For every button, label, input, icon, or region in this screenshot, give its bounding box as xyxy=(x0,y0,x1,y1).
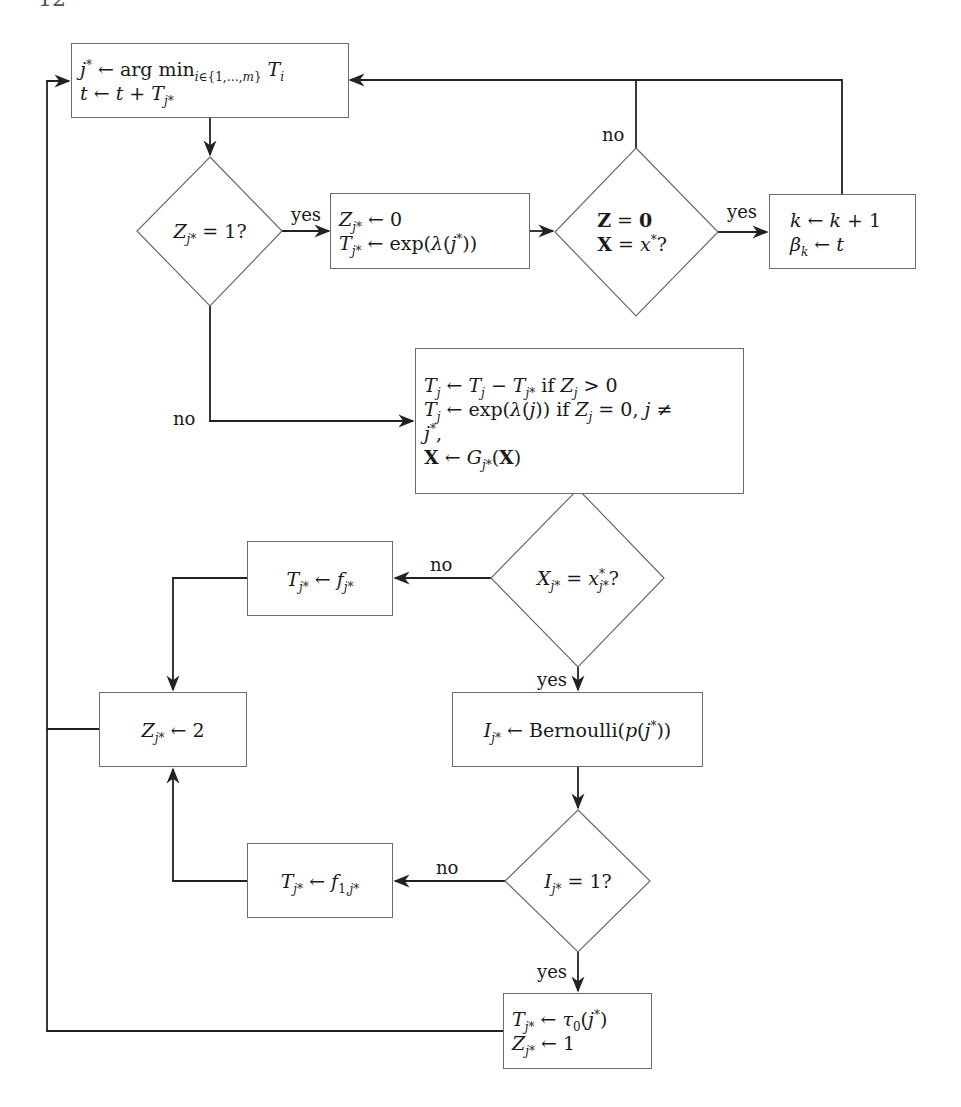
edge-record-back-to-select xyxy=(350,80,842,194)
edge-label-yes-3: yes xyxy=(537,670,567,690)
label-check-component: Xj* = x*j*? xyxy=(537,566,619,590)
label-check-target-state: Z = 0 X = x*? xyxy=(597,208,667,256)
edge-label-no-4: no xyxy=(436,858,458,878)
node-select-event: j* ← arg mini∈{1,…,m} Ti t ← t + Tj* xyxy=(71,43,349,118)
flowchart: 12 xyxy=(0,0,961,1107)
label-check-i: Ij* = 1? xyxy=(544,869,612,893)
edge-no-to-update-all xyxy=(210,306,413,421)
node-set-z-2: Zj* ← 2 xyxy=(99,692,247,767)
edge-label-no-3: no xyxy=(430,555,452,575)
edge-set-f-to-set-z2 xyxy=(173,578,247,690)
node-update-all: Tj ← Tj − Tj* if Zj > 0 Tj ← exp(λ(j)) i… xyxy=(415,348,744,494)
connectors xyxy=(0,0,961,1107)
edge-label-yes-2: yes xyxy=(727,202,757,222)
node-set-tau: Tj* ← τ0(j*) Zj* ← 1 xyxy=(503,993,652,1069)
edge-label-no-1: no xyxy=(173,409,195,429)
node-reset-z: Zj* ← 0 Tj* ← exp(λ(j*)) xyxy=(330,193,530,269)
node-set-f: Tj* ← fj* xyxy=(247,541,393,616)
node-set-f1: Tj* ← f1,j* xyxy=(247,843,393,918)
edge-label-yes-4: yes xyxy=(537,962,567,982)
edge-label-no-2: no xyxy=(602,125,624,145)
node-record-hit: k ← k + 1 βk ← t xyxy=(769,194,916,269)
edge-set-f1-to-set-z2 xyxy=(173,769,247,881)
node-bernoulli: Ij* ← Bernoulli(p(j*)) xyxy=(452,692,703,767)
edge-label-yes-1: yes xyxy=(291,205,321,225)
label-check-z-equals-1: Zj* = 1? xyxy=(173,219,246,243)
